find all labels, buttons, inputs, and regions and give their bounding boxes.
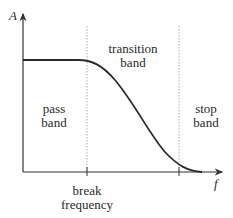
y-axis-label: A	[8, 8, 17, 23]
filter-diagram: A f pass band transition band stop band …	[0, 0, 233, 218]
stop-band-label-2: band	[193, 115, 219, 130]
x-axis-label: f	[214, 176, 220, 191]
break-frequency-label-1: break	[73, 183, 102, 198]
break-frequency-label-2: frequency	[61, 197, 113, 212]
pass-band-label-1: pass	[43, 101, 65, 116]
transition-band-label-2: band	[120, 55, 146, 70]
transition-band-label-1: transition	[108, 41, 158, 56]
stop-band-label-1: stop	[195, 101, 217, 116]
pass-band-label-2: band	[41, 115, 67, 130]
